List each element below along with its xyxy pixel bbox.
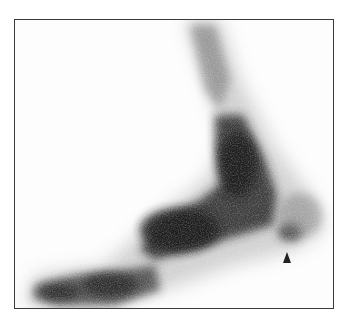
scan-frame [14,19,334,309]
arrowhead-marker-icon [283,252,291,263]
foot-scan-image [15,20,333,308]
